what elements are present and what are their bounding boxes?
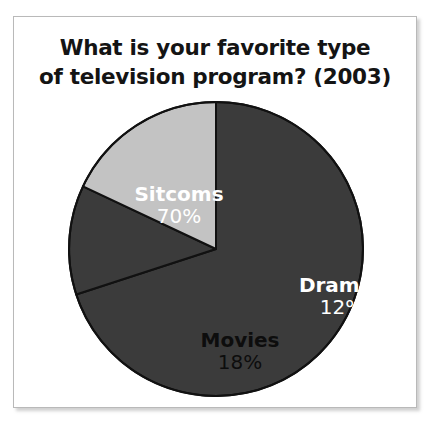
- slice-name-sitcoms: Sitcoms: [104, 183, 254, 205]
- slice-name-movies: Movies: [177, 329, 303, 351]
- chart-frame: What is your favorite type of television…: [13, 16, 417, 408]
- pie-plot-area: Sitcoms 70% Dramas 12% Movies 18%: [14, 17, 418, 409]
- slice-name-dramas: Dramas: [272, 274, 412, 296]
- pie-chart-figure: What is your favorite type of television…: [0, 0, 431, 427]
- slice-label-movies: Movies 18%: [177, 329, 303, 374]
- slice-value-dramas: 12%: [272, 296, 412, 318]
- slice-label-sitcoms: Sitcoms 70%: [104, 183, 254, 228]
- slice-label-dramas: Dramas 12%: [272, 274, 412, 319]
- slice-value-movies: 18%: [177, 351, 303, 373]
- slice-value-sitcoms: 70%: [104, 205, 254, 227]
